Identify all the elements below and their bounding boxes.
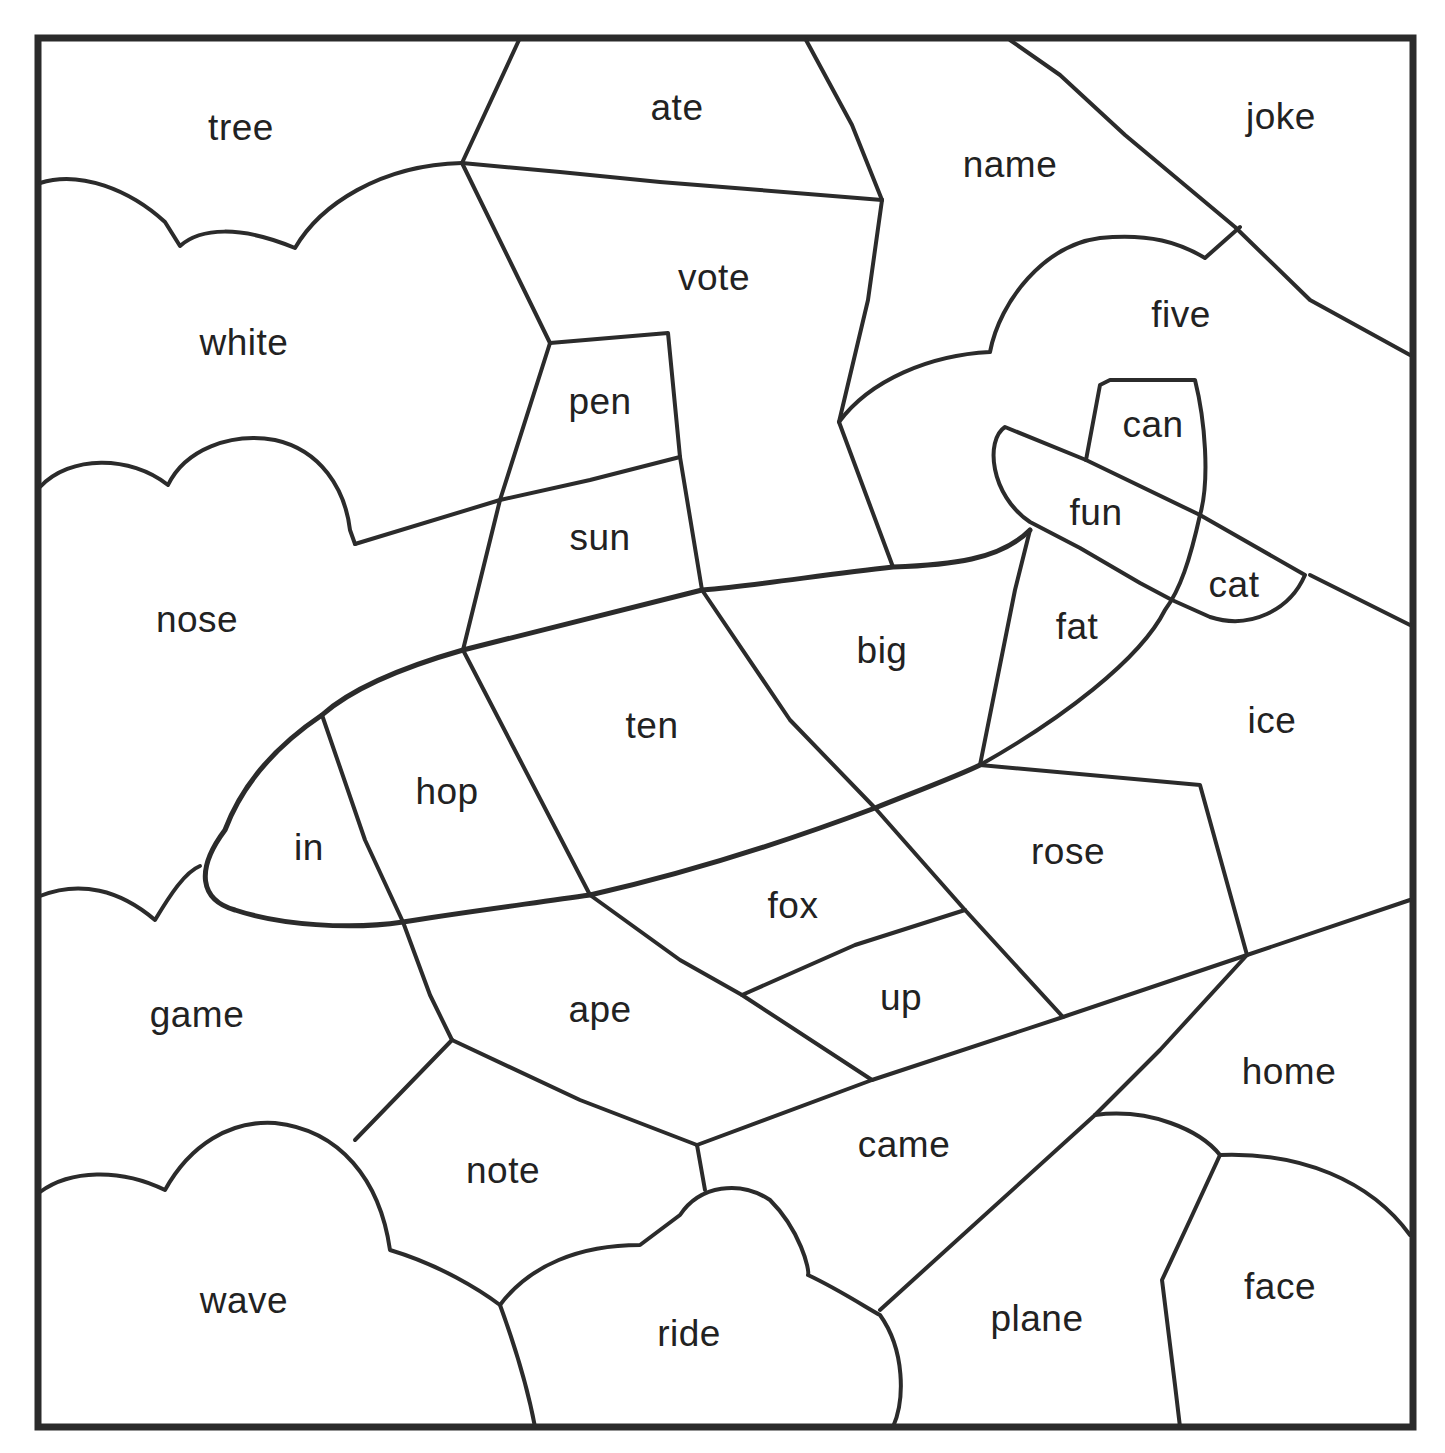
region-line bbox=[40, 866, 200, 920]
region-line bbox=[697, 900, 1410, 1145]
region-line bbox=[462, 163, 550, 343]
region-line bbox=[355, 457, 680, 544]
region-line bbox=[355, 1040, 452, 1140]
word-can: can bbox=[1122, 406, 1183, 443]
worksheet-region-lines bbox=[0, 0, 1445, 1453]
word-face: face bbox=[1244, 1268, 1316, 1305]
word-up: up bbox=[880, 979, 922, 1016]
word-vote: vote bbox=[678, 259, 750, 296]
word-joke: joke bbox=[1246, 98, 1316, 135]
word-fun: fun bbox=[1070, 494, 1123, 531]
word-home: home bbox=[1242, 1053, 1337, 1090]
region-line bbox=[322, 715, 403, 922]
word-ate: ate bbox=[651, 89, 704, 126]
region-line bbox=[462, 40, 519, 163]
region-line bbox=[452, 1040, 697, 1145]
word-game: game bbox=[150, 996, 245, 1033]
region-line bbox=[1310, 575, 1410, 625]
region-line bbox=[40, 1123, 535, 1427]
word-came: came bbox=[858, 1126, 950, 1163]
region-line bbox=[463, 650, 590, 895]
word-ice: ice bbox=[1248, 702, 1297, 739]
region-line bbox=[500, 1188, 901, 1427]
word-in: in bbox=[294, 829, 324, 866]
word-tree: tree bbox=[208, 109, 274, 146]
word-ten: ten bbox=[626, 707, 679, 744]
region-line bbox=[40, 438, 355, 544]
word-hop: hop bbox=[415, 773, 478, 810]
word-fox: fox bbox=[768, 887, 819, 924]
word-big: big bbox=[857, 632, 908, 669]
region-line bbox=[806, 40, 882, 200]
region-line bbox=[462, 163, 882, 200]
word-nose: nose bbox=[156, 601, 238, 638]
region-line bbox=[1095, 1114, 1410, 1235]
word-ape: ape bbox=[568, 991, 631, 1028]
word-white: white bbox=[200, 324, 289, 361]
region-line bbox=[205, 530, 1030, 926]
coloring-worksheet: tree ate name joke white vote five pen c… bbox=[0, 0, 1445, 1453]
region-line bbox=[590, 895, 872, 1080]
region-line bbox=[40, 163, 462, 248]
word-pen: pen bbox=[568, 383, 631, 420]
region-line bbox=[980, 765, 1247, 955]
region-line bbox=[980, 530, 1030, 765]
word-fat: fat bbox=[1056, 608, 1099, 645]
word-ride: ride bbox=[657, 1315, 721, 1352]
word-name: name bbox=[963, 146, 1058, 183]
worksheet-border bbox=[38, 38, 1413, 1427]
region-line bbox=[403, 922, 452, 1040]
word-plane: plane bbox=[990, 1300, 1083, 1337]
word-note: note bbox=[466, 1152, 540, 1189]
region-line bbox=[463, 343, 550, 650]
region-line bbox=[702, 590, 875, 808]
region-line bbox=[1162, 1155, 1220, 1427]
word-sun: sun bbox=[569, 519, 630, 556]
region-line bbox=[680, 457, 702, 590]
word-five: five bbox=[1151, 296, 1211, 333]
region-line bbox=[697, 1145, 705, 1190]
word-cat: cat bbox=[1209, 566, 1260, 603]
word-rose: rose bbox=[1031, 833, 1105, 870]
word-wave: wave bbox=[200, 1282, 288, 1319]
